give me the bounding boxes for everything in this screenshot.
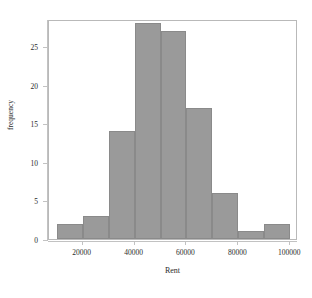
y-axis-tick-label: 10	[31, 158, 39, 167]
histogram-bar	[83, 216, 109, 239]
histogram-bar	[238, 231, 264, 239]
y-axis-tick-label: 5	[34, 197, 38, 206]
y-axis-tick-label: 20	[31, 81, 39, 90]
x-axis-tick	[185, 241, 186, 245]
x-axis-tick-label: 40000	[124, 248, 143, 257]
histogram-chart: 20000400006000080000100000 0510152025 Re…	[0, 0, 312, 298]
x-axis-tick	[289, 241, 290, 245]
x-axis-tick-label: 20000	[72, 248, 91, 257]
y-axis-tick	[43, 240, 47, 241]
plot-area	[48, 20, 297, 240]
y-axis-tick-label: 0	[34, 236, 38, 245]
histogram-bar	[264, 224, 290, 239]
histogram-bar	[161, 31, 187, 239]
y-axis-tick	[43, 86, 47, 87]
x-axis-tick	[134, 241, 135, 245]
x-axis-tick	[82, 241, 83, 245]
y-axis-tick-label: 25	[31, 43, 39, 52]
histogram-bar	[135, 23, 161, 239]
y-axis-tick	[43, 124, 47, 125]
y-axis-line	[47, 20, 48, 241]
x-axis-tick	[237, 241, 238, 245]
y-axis-title: frequency	[6, 100, 15, 130]
x-axis-line	[48, 241, 297, 242]
x-axis-tick-label: 80000	[228, 248, 247, 257]
x-axis-tick-label: 60000	[176, 248, 195, 257]
histogram-bar	[109, 131, 135, 239]
x-axis-tick-label: 100000	[278, 248, 301, 257]
histogram-bar	[186, 108, 212, 239]
y-axis-tick-label: 15	[31, 120, 39, 129]
histogram-bar	[212, 193, 238, 239]
bars-layer	[49, 21, 296, 239]
y-axis-tick	[43, 47, 47, 48]
y-axis-tick	[43, 201, 47, 202]
y-axis-tick	[43, 163, 47, 164]
x-axis-title: Rent	[48, 266, 297, 275]
histogram-bar	[57, 224, 83, 239]
